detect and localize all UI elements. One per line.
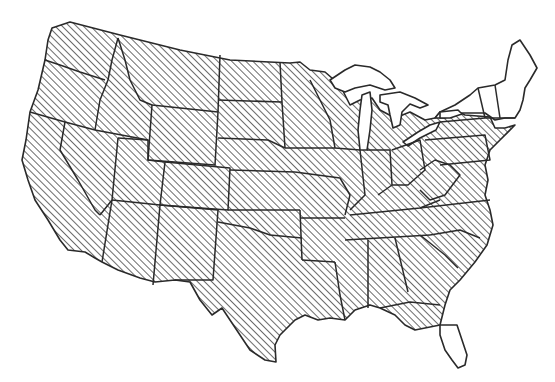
us-landmass-hatched [22, 22, 515, 362]
northern-new-england-unhatched [435, 40, 537, 120]
us-map [0, 0, 555, 382]
florida-south-unhatched [440, 325, 467, 368]
lake-superior [330, 65, 395, 92]
